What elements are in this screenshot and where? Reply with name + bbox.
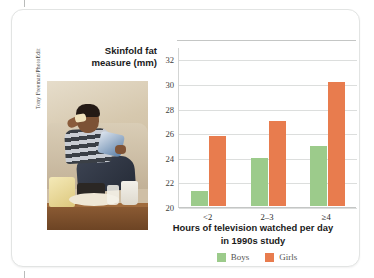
x-axis-title-line2: in 1990s study xyxy=(221,235,286,246)
photo-glass xyxy=(107,185,119,205)
bar-girls-1 xyxy=(269,121,286,206)
y-axis-title-line1: Skinfold fat xyxy=(105,45,157,56)
chart-legend: BoysGirls xyxy=(153,252,361,262)
y-axis-tick-label: 28 xyxy=(165,105,174,115)
plot-top-border xyxy=(177,40,356,41)
legend-item-boys[interactable]: Boys xyxy=(217,252,250,262)
bar-chart: Skinfold fat measure (mm) 20222426283032… xyxy=(153,40,361,270)
bar-boys-1 xyxy=(251,158,268,206)
y-axis-tick-label: 32 xyxy=(165,55,174,65)
y-axis-tick-label: 26 xyxy=(165,129,174,139)
figure-card: Tony Freeman/PhotoEdit Skinfold fat meas… xyxy=(11,9,360,267)
photo-block: Tony Freeman/PhotoEdit xyxy=(47,81,148,230)
x-axis-title: Hours of television watched per day in 1… xyxy=(147,222,359,247)
photo-hand xyxy=(115,145,126,154)
photo-cup xyxy=(121,181,138,205)
legend-swatch-boys xyxy=(217,253,226,262)
photo-table xyxy=(47,207,148,230)
plot-area xyxy=(178,48,356,208)
bar-boys-0 xyxy=(191,191,208,206)
bar-girls-0 xyxy=(209,136,226,206)
bar-girls-2 xyxy=(328,82,345,206)
gridline xyxy=(179,208,357,209)
crop-mark-bottom xyxy=(24,271,25,278)
bar-boys-2 xyxy=(310,146,327,206)
crop-mark-top xyxy=(24,0,25,7)
x-axis-title-line1: Hours of television watched per day xyxy=(173,222,333,233)
y-axis-tick-label: 20 xyxy=(165,203,174,213)
plot-wrapper: 20222426283032 <22–3≥4 xyxy=(178,48,356,208)
legend-label-boys: Boys xyxy=(231,252,250,262)
gridline xyxy=(179,60,357,61)
teen-eating-snacks-photo xyxy=(47,81,148,230)
y-axis-tick-label: 30 xyxy=(165,80,174,90)
y-axis-tick-label: 22 xyxy=(165,178,174,188)
y-axis-tick-label: 24 xyxy=(165,154,174,164)
y-axis-title: Skinfold fat measure (mm) xyxy=(77,45,157,69)
x-axis-tick-label: <2 xyxy=(203,212,212,222)
x-axis-tick-label: ≥4 xyxy=(322,212,331,222)
legend-swatch-girls xyxy=(265,253,274,262)
legend-label-girls: Girls xyxy=(279,252,297,262)
x-axis-tick-label: 2–3 xyxy=(261,212,274,222)
photo-credit: Tony Freeman/PhotoEdit xyxy=(35,0,42,109)
y-axis-title-line2: measure (mm) xyxy=(91,57,157,68)
legend-item-girls[interactable]: Girls xyxy=(265,252,297,262)
